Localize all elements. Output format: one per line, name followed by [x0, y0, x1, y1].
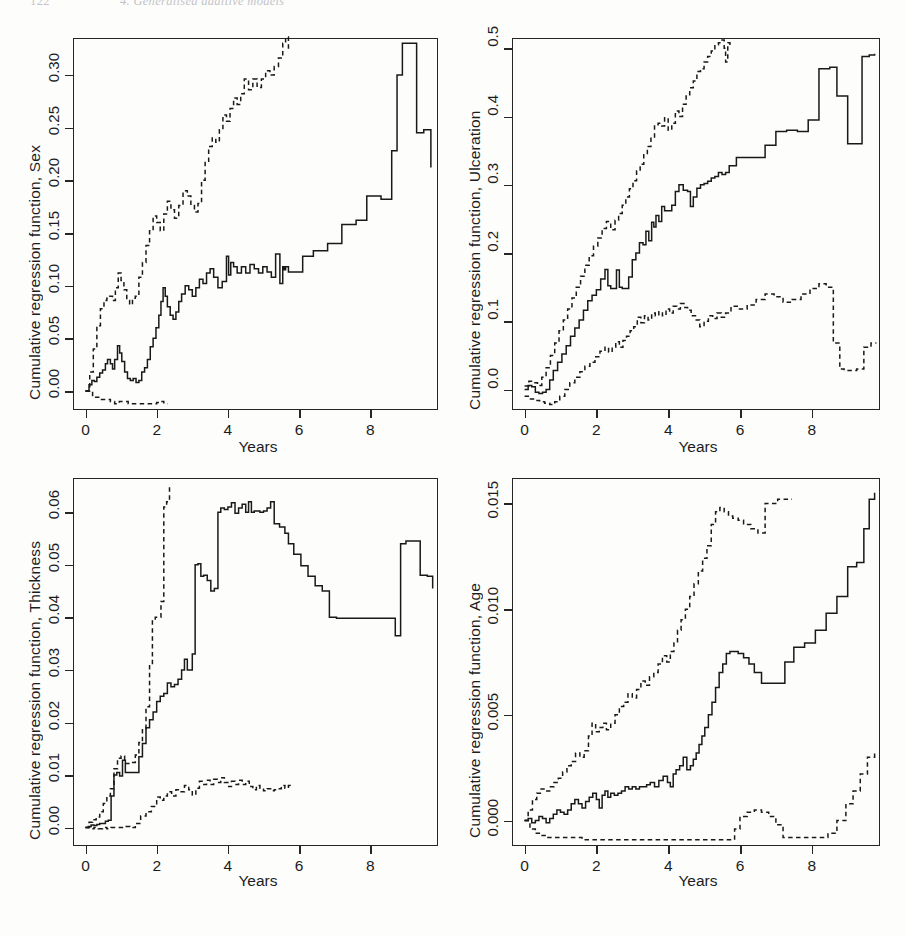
ytick-mark — [65, 286, 73, 288]
ytick-label: 0.01 — [45, 753, 62, 782]
ytick-label: 0.03 — [45, 648, 62, 677]
xtick-mark — [668, 846, 670, 854]
xtick-label: 0 — [71, 421, 101, 439]
xtick-label: 0 — [71, 857, 101, 875]
xtick-label: 2 — [581, 421, 611, 439]
ytick-label: 0.30 — [45, 53, 62, 82]
ytick-mark — [504, 609, 512, 611]
ytick-mark — [65, 338, 73, 340]
ytick-mark — [65, 180, 73, 182]
ytick-label: 0.4 — [484, 95, 501, 116]
xtick-label: 2 — [581, 857, 611, 875]
xtick-label: 6 — [284, 857, 314, 875]
xtick-mark — [157, 410, 159, 418]
ytick-label: 0.00 — [45, 369, 62, 398]
xtick-mark — [596, 846, 598, 854]
ytick-mark — [504, 821, 512, 823]
xtick-mark — [525, 410, 527, 418]
xtick-label: 4 — [653, 857, 683, 875]
xtick-label: 6 — [284, 421, 314, 439]
xtick-mark — [740, 410, 742, 418]
xtick-mark — [370, 846, 372, 854]
ytick-label: 0.04 — [45, 595, 62, 624]
panel-age-plot — [0, 0, 906, 936]
xtick-label: 8 — [355, 857, 385, 875]
curve-age-estimate — [525, 493, 875, 823]
ytick-mark — [65, 775, 73, 777]
ytick-label: 0.2 — [484, 231, 501, 252]
ytick-mark — [65, 723, 73, 725]
xtick-mark — [228, 410, 230, 418]
xtick-label: 4 — [213, 857, 243, 875]
ytick-label: 0.25 — [45, 106, 62, 135]
curve-age-upper-confidence-band — [525, 499, 792, 820]
ytick-mark — [504, 117, 512, 119]
ytick-mark — [504, 715, 512, 717]
ytick-mark — [65, 75, 73, 77]
ytick-label: 0.20 — [45, 158, 62, 187]
xtick-mark — [86, 410, 88, 418]
ytick-label: 0.015 — [484, 481, 501, 519]
ytick-mark — [504, 253, 512, 255]
figure-page: 122 4. Generalised additive models Cumul… — [0, 0, 906, 936]
ytick-label: 0.0 — [484, 368, 501, 389]
xtick-mark — [299, 846, 301, 854]
ytick-mark — [65, 233, 73, 235]
xtick-mark — [668, 410, 670, 418]
xtick-mark — [157, 846, 159, 854]
xtick-mark — [525, 846, 527, 854]
ytick-label: 0.06 — [45, 490, 62, 519]
ytick-mark — [65, 670, 73, 672]
ytick-mark — [65, 617, 73, 619]
ytick-label: 0.005 — [484, 693, 501, 731]
xtick-mark — [370, 410, 372, 418]
ytick-label: 0.02 — [45, 701, 62, 730]
ytick-label: 0.000 — [484, 799, 501, 837]
xtick-label: 0 — [510, 421, 540, 439]
xtick-label: 8 — [355, 421, 385, 439]
xtick-label: 4 — [653, 421, 683, 439]
xtick-mark — [812, 410, 814, 418]
ytick-label: 0.10 — [45, 264, 62, 293]
ytick-label: 0.05 — [45, 316, 62, 345]
xtick-mark — [740, 846, 742, 854]
ytick-mark — [65, 391, 73, 393]
ytick-mark — [65, 828, 73, 830]
xtick-label: 0 — [510, 857, 540, 875]
xtick-label: 8 — [797, 857, 827, 875]
ytick-label: 0.5 — [484, 26, 501, 47]
ytick-label: 0.00 — [45, 806, 62, 835]
ytick-label: 0.05 — [45, 543, 62, 572]
xtick-label: 8 — [797, 421, 827, 439]
xtick-mark — [596, 410, 598, 418]
ytick-mark — [504, 48, 512, 50]
xtick-label: 6 — [725, 857, 755, 875]
ytick-mark — [504, 503, 512, 505]
xtick-label: 2 — [142, 421, 172, 439]
xtick-mark — [228, 846, 230, 854]
ytick-mark — [504, 185, 512, 187]
xtick-mark — [812, 846, 814, 854]
xtick-label: 6 — [725, 421, 755, 439]
ytick-mark — [65, 565, 73, 567]
ytick-mark — [504, 390, 512, 392]
ytick-label: 0.1 — [484, 299, 501, 320]
ytick-label: 0.010 — [484, 587, 501, 625]
ytick-label: 0.3 — [484, 163, 501, 184]
ytick-mark — [65, 512, 73, 514]
curve-age-lower-confidence-band — [525, 753, 875, 840]
ytick-label: 0.15 — [45, 211, 62, 240]
ytick-mark — [504, 321, 512, 323]
ytick-mark — [65, 128, 73, 130]
xtick-label: 4 — [213, 421, 243, 439]
xtick-mark — [299, 410, 301, 418]
xtick-label: 2 — [142, 857, 172, 875]
xtick-mark — [86, 846, 88, 854]
